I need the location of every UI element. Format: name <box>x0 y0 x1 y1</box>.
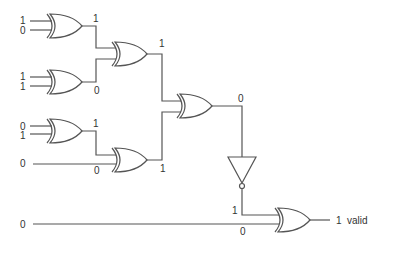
final-output-value: 1 <box>336 215 342 226</box>
output-label: 1 <box>232 205 238 216</box>
xor-gate-5: 0 0 1 <box>20 112 181 176</box>
input-label: 0 <box>20 25 26 36</box>
xor-gate-1: 1 0 1 <box>20 13 116 48</box>
input-label: 0 <box>240 226 246 237</box>
input-label: 1 <box>20 81 26 92</box>
xor-gate-3: 1 <box>112 38 181 101</box>
input-label: 0 <box>20 158 26 169</box>
xor-gate-7-final: 0 0 1 valid <box>20 208 368 237</box>
logic-circuit-diagram: 1 0 1 1 1 0 1 0 1 1 <box>0 0 398 253</box>
input-label: 0 <box>94 165 100 176</box>
final-output-name: valid <box>347 215 368 226</box>
output-label: 1 <box>93 13 99 24</box>
xor-gate-6: 0 <box>177 93 244 157</box>
output-label: 0 <box>238 93 244 104</box>
output-label: 0 <box>94 85 100 96</box>
not-gate: 1 <box>228 157 279 216</box>
output-label: 1 <box>160 163 166 174</box>
xor-gate-2: 1 1 0 <box>20 59 116 96</box>
input-label: 1 <box>20 130 26 141</box>
input-label: 0 <box>20 219 26 230</box>
output-label: 1 <box>93 118 99 129</box>
xor-gate-4: 0 1 1 <box>20 118 116 155</box>
output-label: 1 <box>159 38 165 49</box>
